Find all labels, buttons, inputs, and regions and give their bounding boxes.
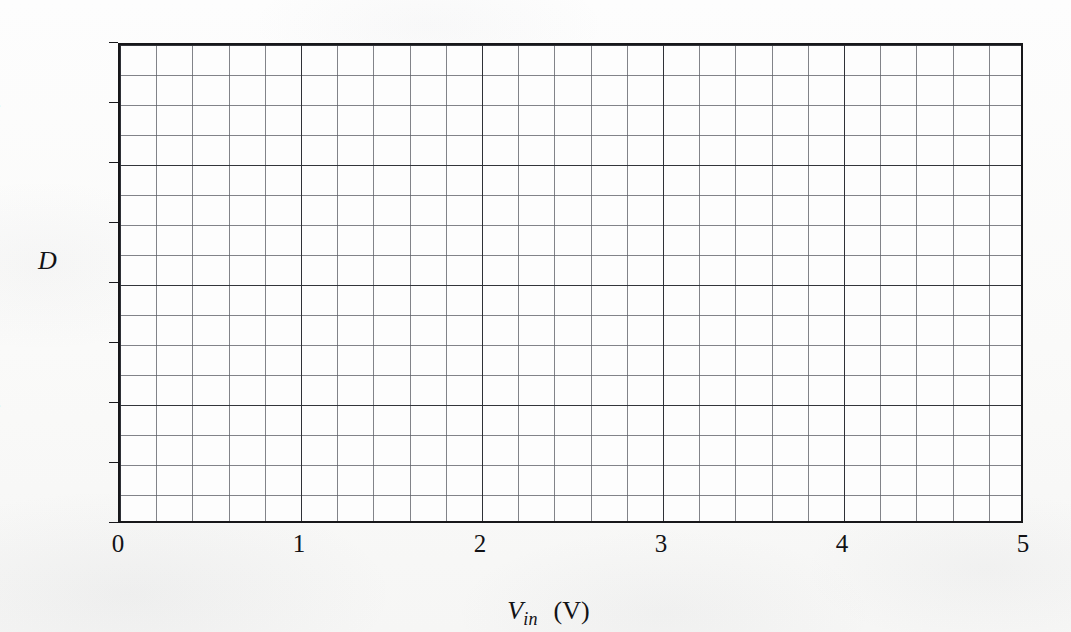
x-tick-label: 0 <box>88 531 148 556</box>
y-tick-mark <box>109 402 118 403</box>
y-tick-mark <box>109 342 118 343</box>
x-axis-title: Vin(V) <box>0 572 1071 632</box>
x-tick-label: 1 <box>269 531 329 556</box>
y-tick-mark <box>109 522 118 523</box>
y-tick-mark <box>109 282 118 283</box>
y-tick-mark <box>109 42 118 43</box>
x-tick-label: 3 <box>631 531 691 556</box>
x-tick-label: 4 <box>812 531 872 556</box>
y-tick-mark <box>109 462 118 463</box>
grid-major-lines <box>120 45 1021 521</box>
y-tick-mark <box>109 162 118 163</box>
x-axis-unit: (V) <box>554 596 590 625</box>
x-axis-subscript: in <box>523 609 537 629</box>
x-tick-label: 2 <box>450 531 510 556</box>
y-axis-title: D <box>38 248 57 274</box>
y-tick-mark <box>109 102 118 103</box>
x-axis-variable: V <box>507 596 523 625</box>
plot-area[interactable] <box>118 43 1023 523</box>
x-tick-label: 5 <box>993 531 1053 556</box>
grid-minor-lines <box>120 45 1021 521</box>
y-tick-mark <box>109 222 118 223</box>
figure-page: D 0326496128160192224256 012345 Vin(V) <box>0 0 1071 632</box>
